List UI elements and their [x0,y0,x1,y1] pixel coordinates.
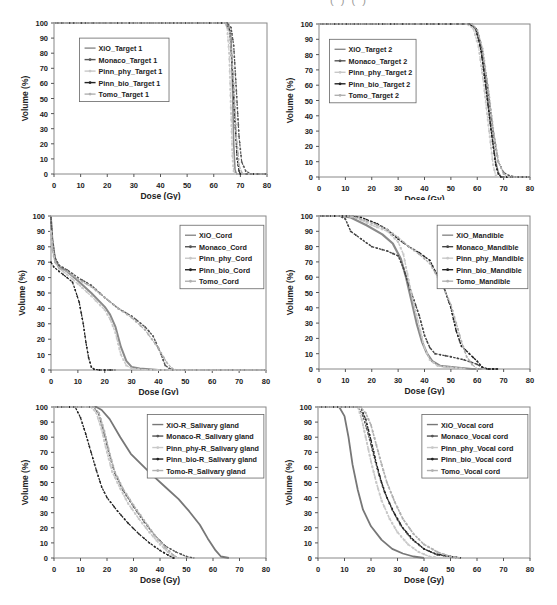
x-axis-label: Dose (Gy) [140,191,180,200]
chart-panel-cord: 010203040506070809010001020304050607080D… [0,200,280,395]
y-tick-label: 30 [305,319,313,328]
dvh-chart-svg: 010203040506070809010001020304050607080D… [280,8,557,200]
legend-entry: Monaco_Target 1 [99,56,158,65]
y-tick-label: 90 [305,35,313,44]
legend-entry: Monaco_Vocal cord [441,432,508,441]
x-tick-label: 10 [340,565,348,574]
y-tick-label: 20 [304,524,312,533]
chart-panel-mandible: 010203040506070809010001020304050607080D… [280,200,557,395]
dvh-chart-svg: 010203040506070809010001020304050607080D… [280,395,557,595]
x-tick-label: 80 [263,181,271,190]
x-tick-label: 70 [235,565,243,574]
y-tick-label: 20 [305,334,313,343]
y-tick-label: 40 [304,494,312,503]
legend-entry: Pinn_bio_Mandible [456,266,522,275]
y-tick-label: 100 [35,403,48,412]
x-tick-label: 20 [367,565,375,574]
x-tick-label: 60 [208,377,216,386]
x-tick-label: 60 [473,184,481,193]
x-tick-label: 10 [341,184,349,193]
x-tick-label: 70 [499,565,507,574]
chart-legend: XiO_Target 1Monaco_Target 1Pinn_phy_Targ… [80,38,169,102]
y-tick-label: 20 [40,140,48,149]
legend-entry: Monaco_Target 2 [349,57,408,66]
y-tick-label: 90 [305,227,313,236]
x-tick-label: 80 [526,376,534,385]
legend-entry: Pinn_phy-R_Salivary gland [166,444,259,453]
y-tick-label: 80 [305,243,313,252]
x-tick-label: 40 [420,565,428,574]
y-tick-label: 10 [40,539,48,548]
y-tick-label: 100 [300,212,313,221]
x-tick-label: 70 [235,377,243,386]
legend-entry: Tomo_Vocal cord [441,467,500,476]
y-tick-label: 90 [40,418,48,427]
x-tick-label: 20 [103,565,111,574]
chart-panel-target-1: 010203040506070809010001020304050607080D… [0,8,280,200]
y-tick-label: 100 [35,19,48,28]
legend-entry: Pinn_phy_Target 1 [99,67,163,76]
y-tick-label: 30 [37,320,45,329]
y-axis-label: Volume (%) [17,270,27,316]
y-tick-label: 10 [37,351,45,360]
y-tick-label: 0 [44,170,48,179]
y-tick-label: 70 [40,64,48,73]
x-tick-label: 20 [368,376,376,385]
legend-entry: Monaco-R_Salivary gland [166,432,253,441]
legend-entry: Pinn_phy_Cord [199,254,252,263]
x-tick-label: 50 [446,565,454,574]
chart-legend: XiO_MandibleMonaco_MandiblePinn_phy_Mand… [437,225,528,289]
x-tick-label: 0 [317,376,321,385]
y-tick-label: 40 [40,494,48,503]
y-tick-label: 70 [40,448,48,457]
y-axis-label: Volume (%) [20,76,30,122]
y-tick-label: 90 [37,227,45,236]
y-tick-label: 80 [304,433,312,442]
x-axis-label: Dose (Gy) [138,387,178,395]
x-tick-label: 0 [52,565,56,574]
y-axis-label: Volume (%) [285,270,295,316]
chart-legend: XiO_Target 2Monaco_Target 2Pinn_phy_Targ… [330,39,417,103]
y-tick-label: 70 [37,258,45,267]
chart-legend: XiO-R_Salivary glandMonaco-R_Salivary gl… [147,415,264,479]
y-tick-label: 80 [40,49,48,58]
x-axis-label: Dose (Gy) [140,575,180,585]
y-tick-label: 70 [305,66,313,75]
chart-legend: XiO_CordMonaco_CordPinn_phy_CordPinn_bio… [180,225,264,288]
dvh-chart-svg: 010203040506070809010001020304050607080D… [0,8,280,200]
x-tick-label: 0 [52,181,56,190]
y-tick-label: 20 [37,335,45,344]
y-tick-label: 90 [40,34,48,43]
x-tick-label: 20 [103,181,111,190]
chart-panel-r-salivary-gland: 010203040506070809010001020304050607080D… [0,395,280,595]
y-tick-label: 40 [37,304,45,313]
legend-entry: Monaco_Mandible [456,243,518,252]
x-tick-label: 10 [76,565,84,574]
legend-entry: Tomo-R_Salivary gland [166,467,245,476]
x-tick-label: 30 [393,565,401,574]
legend-entry: XiO_Target 2 [349,45,393,54]
y-tick-label: 60 [40,79,48,88]
x-tick-label: 20 [101,377,109,386]
x-tick-label: 80 [262,565,270,574]
x-tick-label: 50 [182,565,190,574]
legend-entry: XiO_Mandible [456,231,504,240]
x-tick-label: 60 [209,565,217,574]
legend-entry: Pinn_bio_Target 1 [99,79,161,88]
y-tick-label: 100 [32,212,45,221]
x-tick-label: 10 [341,376,349,385]
legend-entry: Tomo_Target 1 [99,90,149,99]
legend-entry: Tomo_Mandible [456,277,510,286]
y-tick-label: 10 [305,350,313,359]
legend-entry: XiO_Cord [199,231,232,240]
x-tick-label: 30 [394,184,402,193]
y-axis-label: Volume (%) [284,460,294,506]
legend-entry: Pinn_phy_Vocal cord [441,444,514,453]
y-tick-label: 30 [304,509,312,518]
y-tick-label: 0 [309,173,313,182]
x-tick-label: 50 [181,377,189,386]
dvh-chart-svg: 010203040506070809010001020304050607080D… [0,395,280,595]
y-tick-label: 70 [305,258,313,267]
figure-caption-fragment: ( ) ( ) [330,0,368,6]
y-tick-label: 10 [304,539,312,548]
